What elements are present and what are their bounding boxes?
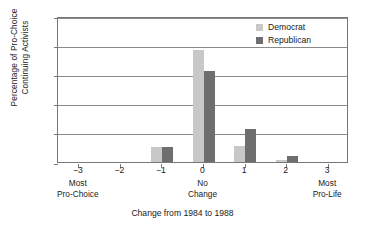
x-axis-annotation-line: Change	[163, 189, 243, 200]
x-axis-annotation-line: Most	[38, 178, 118, 189]
x-axis-tick-label: 0	[183, 166, 223, 175]
x-axis-annotation-line: Most	[287, 178, 365, 189]
bar-democrat-2	[276, 160, 287, 162]
legend-item-democrat: Democrat	[256, 21, 311, 33]
x-axis-annotation-line: Pro-Choice	[38, 189, 118, 200]
legend: Democrat Republican	[256, 21, 311, 47]
gridline	[58, 18, 347, 19]
x-axis-annotation: NoChange	[163, 178, 243, 200]
legend-item-republican: Republican	[256, 34, 311, 46]
y-axis-title: Percentage of Pro-Choice Continuing Acti…	[9, 0, 30, 133]
x-axis-tick-label: −3	[58, 166, 98, 175]
x-axis-tick-label: −2	[99, 166, 139, 175]
legend-swatch-democrat	[256, 24, 263, 31]
bar-republican-1	[245, 129, 256, 162]
x-axis-annotation: MostPro-Choice	[38, 178, 118, 200]
y-axis-tick-mark	[54, 76, 58, 77]
x-axis-tick-label: 1	[224, 166, 264, 175]
x-axis-annotation: MostPro-Life	[287, 178, 365, 200]
legend-swatch-republican	[256, 37, 263, 44]
y-axis-title-line-2: Continuing Activists	[19, 0, 30, 133]
y-axis-tick-mark	[54, 105, 58, 106]
y-axis-tick-mark	[54, 164, 58, 165]
x-axis-title: Change from 1984 to 1988	[0, 208, 365, 218]
bar-republican--1	[162, 147, 173, 162]
y-axis-tick-mark	[54, 18, 58, 19]
x-axis-tick-label: 2	[266, 166, 306, 175]
legend-label-democrat: Democrat	[268, 21, 305, 33]
bar-democrat-0	[193, 50, 204, 162]
x-axis-tick-label: −1	[141, 166, 181, 175]
bar-chart-figure: Percentage of Pro-Choice Continuing Acti…	[0, 0, 365, 225]
bar-democrat--1	[151, 147, 162, 162]
bar-democrat-1	[234, 146, 245, 162]
x-axis-annotation-line: No	[163, 178, 243, 189]
y-axis-title-line-1: Percentage of Pro-Choice	[9, 0, 20, 133]
bar-republican-0	[204, 71, 215, 162]
x-axis-tick-label: 3	[307, 166, 347, 175]
bar-republican-2	[287, 156, 298, 162]
x-axis-annotation-line: Pro-Life	[287, 189, 365, 200]
gridline	[58, 47, 347, 48]
y-axis-tick-mark	[54, 47, 58, 48]
y-axis-tick-mark	[54, 134, 58, 135]
plot-area: Democrat Republican 020406080100	[57, 17, 348, 163]
legend-label-republican: Republican	[268, 34, 311, 46]
